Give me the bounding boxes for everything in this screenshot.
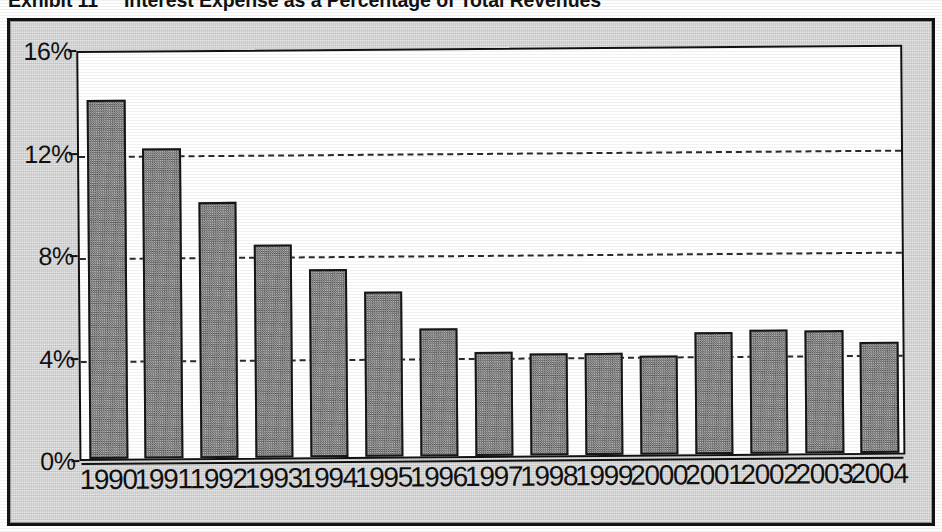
- x-tick-label-1995: 1995: [355, 463, 410, 493]
- bar-1999: [585, 352, 624, 455]
- x-axis: 1990199119921993199419951996199719981999…: [79, 459, 905, 505]
- x-tick-label-1997: 1997: [465, 462, 520, 492]
- chart-figure-frame: 0%4%8%12%16% 199019911992199319941995199…: [7, 18, 935, 526]
- bar-1991: [142, 148, 183, 458]
- bar-1998: [530, 353, 569, 456]
- x-tick-label-2000: 2000: [630, 460, 685, 490]
- plot-area: [76, 45, 905, 461]
- y-tick-mark-8: [70, 255, 78, 257]
- x-tick-label-2004: 2004: [850, 459, 905, 489]
- x-tick-label-2001: 2001: [685, 460, 740, 490]
- exhibit-title: Exhibit 11Interest Expense as a Percenta…: [8, 0, 601, 12]
- bar-2003: [805, 330, 844, 453]
- y-tick-mark-16: [68, 50, 76, 52]
- bar-1997: [474, 352, 513, 456]
- y-tick-mark-12: [69, 153, 77, 155]
- bar-2000: [640, 356, 679, 455]
- bar-2001: [695, 332, 734, 454]
- x-tick-label-1990: 1990: [79, 465, 134, 495]
- bars: [78, 47, 903, 459]
- bar-1996: [419, 328, 458, 456]
- x-tick-label-2002: 2002: [740, 459, 795, 489]
- x-tick-label-1998: 1998: [520, 461, 575, 491]
- y-tick-label-8pct: 8%: [12, 244, 74, 269]
- bar-2004: [860, 341, 899, 453]
- exhibit-number: Exhibit 11: [8, 0, 98, 11]
- y-tick-mark-0: [71, 460, 79, 462]
- figure-page: Exhibit 11Interest Expense as a Percenta…: [0, 0, 942, 532]
- exhibit-title-strip: Exhibit 11Interest Expense as a Percenta…: [0, 0, 942, 17]
- y-tick-label-16pct: 16%: [10, 39, 72, 64]
- bar-1993: [253, 245, 293, 458]
- x-tick-label-2003: 2003: [795, 459, 850, 489]
- x-tick-label-1993: 1993: [245, 463, 300, 493]
- bar-1994: [309, 269, 349, 458]
- x-tick-label-1999: 1999: [575, 461, 630, 491]
- y-tick-label-4pct: 4%: [13, 346, 75, 371]
- y-tick-mark-4: [71, 358, 79, 360]
- bar-1995: [364, 291, 404, 457]
- bar-2002: [750, 329, 789, 454]
- bar-1992: [198, 202, 238, 459]
- y-axis: 0%4%8%12%16%: [8, 51, 75, 461]
- y-tick-label-12pct: 12%: [11, 141, 73, 166]
- x-tick-label-1991: 1991: [135, 464, 190, 494]
- bar-1990: [87, 100, 128, 459]
- y-tick-label-0pct: 0%: [13, 449, 75, 474]
- chart-skew-wrapper: 0%4%8%12%16% 199019911992199319941995199…: [8, 17, 940, 532]
- x-tick-label-1994: 1994: [300, 463, 355, 493]
- x-tick-label-1996: 1996: [410, 462, 465, 492]
- x-tick-label-1992: 1992: [190, 464, 245, 494]
- exhibit-caption: Interest Expense as a Percentage of Tota…: [124, 0, 601, 11]
